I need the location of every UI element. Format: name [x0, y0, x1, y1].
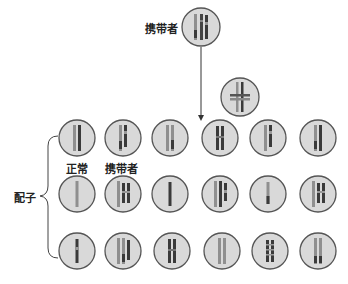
gamete-cell [300, 233, 336, 269]
gamete-cell [59, 120, 95, 156]
gamete-cell [252, 233, 288, 269]
gamete-cell [202, 120, 238, 156]
gametes-brace [40, 136, 58, 258]
gamete-cell [250, 120, 286, 156]
gamete-cell [105, 120, 141, 156]
gamete-cell [300, 120, 336, 156]
meiosis-cell [221, 78, 259, 116]
gamete-cell [59, 233, 95, 269]
gamete-cell [250, 176, 286, 212]
gamete-cell [152, 120, 188, 156]
carrier-label: 携带者 [105, 160, 138, 176]
gamete-cell [202, 176, 238, 212]
gamete-cell [204, 233, 240, 269]
parent-cell [182, 8, 220, 46]
gamete-cell [105, 176, 141, 212]
parent-carrier-label: 携带者 [145, 20, 178, 36]
gamete-cell [59, 176, 95, 212]
gamete-cell [300, 176, 336, 212]
translocation-diagram [0, 0, 348, 284]
gametes-label: 配子 [14, 189, 36, 205]
gamete-cell [152, 176, 188, 212]
gamete-cell [105, 233, 141, 269]
normal-label: 正常 [66, 160, 88, 176]
gamete-cell [154, 233, 190, 269]
